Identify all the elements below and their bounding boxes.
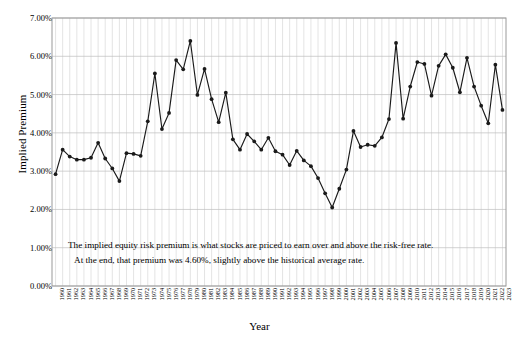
chart-annotation: The implied equity risk premium is what … — [68, 238, 448, 268]
annotation-line-2: At the end, that premium was 4.60%, slig… — [68, 253, 448, 268]
plot-area — [0, 0, 519, 340]
annotation-line-1: The implied equity risk premium is what … — [68, 238, 448, 253]
implied-premium-chart: Implied Premium Year 0.00%1.00%2.00%3.00… — [0, 0, 519, 340]
